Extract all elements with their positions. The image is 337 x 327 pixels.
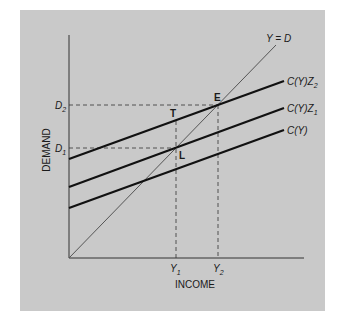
x-axis-title: INCOME xyxy=(175,279,215,290)
point-e-label: E xyxy=(214,92,221,103)
cyz1-label: C(Y)Z1 xyxy=(287,103,318,116)
y-equals-d-line xyxy=(69,45,276,258)
cy-line xyxy=(69,130,284,208)
d1-tick-label: D1 xyxy=(55,143,66,156)
point-l-label: L xyxy=(179,150,185,161)
point-t-label: T xyxy=(170,108,176,119)
demand-income-diagram: Y = D C(Y)Z2 C(Y)Z1 C(Y) E T L D2 D1 Y1 … xyxy=(0,0,337,327)
y2-tick-label: Y2 xyxy=(213,263,224,276)
cyz2-label: C(Y)Z2 xyxy=(287,76,318,89)
y1-tick-label: Y1 xyxy=(170,263,181,276)
y-axis-title: DEMAND xyxy=(41,128,52,171)
y-equals-d-label: Y = D xyxy=(266,33,291,44)
cy-label: C(Y) xyxy=(287,125,308,136)
d2-tick-label: D2 xyxy=(55,100,66,113)
